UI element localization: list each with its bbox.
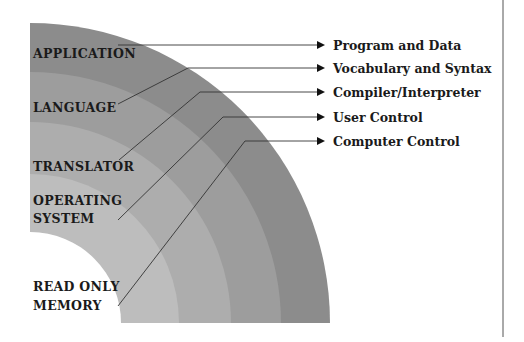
arrow-icon (317, 41, 325, 49)
arrow-icon (317, 88, 325, 96)
label-translator: TRANSLATOR (33, 159, 135, 174)
function-vocabulary-and-syntax: Vocabulary and Syntax (332, 61, 492, 76)
label-operating: OPERATING (33, 193, 122, 208)
label-system: SYSTEM (33, 211, 94, 226)
label-read-only: READ ONLY (33, 279, 121, 294)
function-computer-control: Computer Control (333, 134, 460, 149)
function-labels: Program and Data Vocabulary and Syntax C… (332, 38, 492, 149)
layered-software-diagram: APPLICATION LANGUAGE TRANSLATOR OPERATIN… (0, 0, 524, 342)
function-user-control: User Control (333, 110, 423, 125)
arrow-icon (317, 137, 325, 145)
function-compiler-interpreter: Compiler/Interpreter (333, 85, 481, 100)
label-application: APPLICATION (32, 46, 136, 61)
arrow-icon (317, 113, 325, 121)
function-program-and-data: Program and Data (333, 38, 461, 53)
arrowheads (317, 41, 325, 145)
arrow-icon (317, 64, 325, 72)
label-memory: MEMORY (33, 298, 103, 313)
label-language: LANGUAGE (33, 100, 116, 115)
